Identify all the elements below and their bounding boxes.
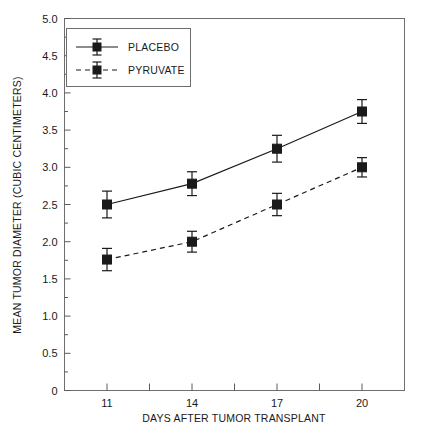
y-tick-label: 0.5	[42, 347, 57, 359]
x-tick-label: 17	[271, 397, 283, 409]
y-tick-label: 1.5	[42, 273, 57, 285]
x-tick-label: 20	[356, 397, 368, 409]
x-tick-label: 11	[101, 397, 112, 409]
y-tick-label: 4.5	[42, 50, 57, 62]
y-tick-label: 2.0	[42, 236, 57, 248]
y-tick-label: 5.0	[42, 13, 57, 25]
data-point-marker	[273, 144, 282, 153]
data-point-marker	[358, 107, 367, 116]
chart-background	[0, 0, 422, 441]
legend-entry-label: PLACEBO	[128, 41, 179, 53]
legend-sample-marker	[93, 66, 102, 75]
data-point-marker	[273, 200, 282, 209]
y-axis-title: MEAN TUMOR DIAMETER (CUBIC CENTIMETERS)	[11, 76, 23, 333]
data-point-marker	[358, 163, 367, 172]
data-point-marker	[188, 179, 197, 188]
x-axis-title: DAYS AFTER TUMOR TRANSPLANT	[142, 412, 326, 424]
legend-box	[67, 29, 191, 87]
y-tick-label: 3.5	[42, 124, 57, 136]
y-tick-label: 0	[51, 385, 57, 397]
x-tick-label: 14	[186, 397, 198, 409]
legend-sample-marker	[93, 43, 102, 52]
line-chart: 00.51.01.52.02.53.03.54.04.55.0 11141720…	[0, 0, 422, 441]
chart-legend: PLACEBOPYRUVATE	[67, 29, 191, 87]
legend-entry-label: PYRUVATE	[128, 64, 185, 76]
data-point-marker	[103, 255, 112, 264]
chart-figure: 00.51.01.52.02.53.03.54.04.55.0 11141720…	[0, 0, 422, 441]
y-tick-label: 4.0	[42, 87, 57, 99]
y-tick-label: 3.0	[42, 161, 57, 173]
data-point-marker	[188, 237, 197, 246]
data-point-marker	[103, 200, 112, 209]
y-tick-label: 2.5	[42, 199, 57, 211]
y-tick-label: 1.0	[42, 310, 57, 322]
